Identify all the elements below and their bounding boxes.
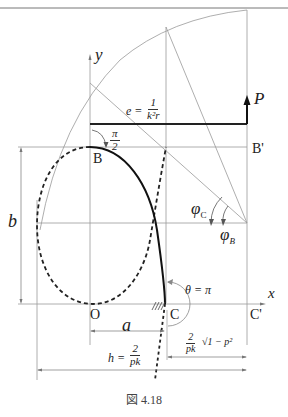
x-axis-label: x [268, 286, 275, 301]
e-den: k²r [147, 110, 159, 122]
dim-b-label: b [8, 212, 17, 230]
y-axis-arrow [89, 54, 92, 60]
half-pi-label: π 2 [110, 128, 120, 152]
h-num: 2 [130, 343, 140, 356]
phi-c-label: φC [191, 200, 206, 220]
e-num: 1 [148, 97, 158, 110]
dim-a-arrow-right [160, 330, 165, 333]
half-pi-num: π [110, 128, 120, 141]
e-formula-lhs: e = [126, 105, 142, 117]
figure-caption: 図 4.18 [0, 390, 288, 408]
y-axis-label: y [95, 46, 103, 63]
x-axis-arrow [260, 303, 266, 306]
dim-h-arrow-left [37, 369, 42, 372]
dim-h-arrow-right [242, 369, 247, 372]
dim-a-arrow-left [90, 330, 95, 333]
dim-cc-arrow-right [242, 356, 247, 359]
phi-b-label: φB [220, 226, 235, 246]
elastica-dashed-tail [155, 304, 165, 380]
elastica-diagram [0, 0, 288, 417]
point-b-label: B [93, 152, 102, 166]
half-pi-arc [92, 130, 106, 146]
dim-a-label: a [122, 316, 131, 334]
dim-b-arrow-bottom [20, 299, 23, 304]
h-den: pk [130, 356, 140, 368]
h-formula-lhs: h = [108, 352, 125, 364]
load-label: P [254, 90, 264, 107]
elastica-dashed-loop [37, 147, 166, 304]
dim-cc-arrow-left [167, 356, 172, 359]
point-b-prime-label: B' [252, 142, 264, 156]
dim-b-arrow-top [20, 147, 23, 152]
load-arrow-head [244, 95, 251, 105]
point-c-label: C [170, 308, 179, 322]
cc-den: pk [186, 344, 195, 355]
cc-formula-frac: 2 pk [186, 332, 195, 354]
theta-label: θ = π [185, 284, 211, 296]
origin-label: O [90, 308, 100, 322]
construction-arc [40, 10, 247, 230]
half-pi-den: 2 [112, 141, 118, 153]
cc-formula-sqrt: √1 − p² [202, 337, 232, 347]
beam-deflected-shape [90, 147, 165, 304]
h-formula-frac: 2 pk [130, 343, 140, 367]
theta-arrowhead [167, 279, 173, 285]
cc-num: 2 [186, 332, 195, 344]
clamp-hatch [152, 302, 165, 310]
phi-c-arrowhead [209, 219, 214, 226]
e-formula-frac: 1 k²r [147, 97, 159, 121]
point-c-prime-label: C' [250, 308, 262, 322]
